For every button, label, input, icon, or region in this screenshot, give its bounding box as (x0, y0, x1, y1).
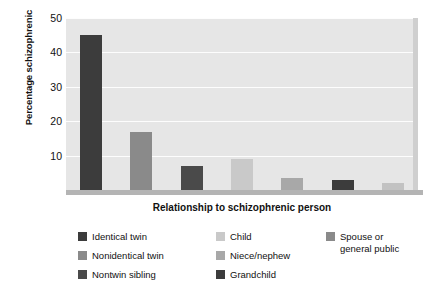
legend-item: Nonidentical twin (78, 250, 208, 263)
plot-right-edge (413, 18, 418, 190)
y-axis-tick-40: 40 (36, 47, 62, 58)
legend-item: Spouse or general public (326, 231, 431, 257)
legend-column-0: Identical twinNonidentical twinNontwin s… (78, 231, 208, 288)
y-axis-tick-30: 30 (36, 82, 62, 93)
chart-legend: Identical twinNonidentical twinNontwin s… (78, 231, 428, 291)
legend-label: Child (230, 231, 252, 243)
bar-0 (80, 35, 102, 190)
bar-series (66, 18, 418, 190)
legend-swatch-icon (216, 232, 225, 241)
chart-figure: Percentage schizophrenic 1020304050 Rela… (0, 0, 436, 300)
legend-label: Identical twin (92, 231, 147, 243)
bar-5 (332, 180, 354, 190)
legend-swatch-icon (326, 232, 335, 241)
legend-item: Niece/nephew (216, 250, 326, 263)
legend-swatch-icon (78, 232, 87, 241)
legend-label: Nonidentical twin (92, 250, 164, 262)
bar-2 (181, 166, 203, 190)
legend-item: Child (216, 231, 326, 244)
x-axis-title: Relationship to schizophrenic person (66, 202, 418, 213)
bar-4 (281, 178, 303, 190)
legend-item: Grandchild (216, 269, 326, 282)
x-axis-baseline (66, 190, 423, 195)
legend-label: Niece/nephew (230, 250, 290, 262)
legend-swatch-icon (78, 270, 87, 279)
y-axis-tick-10: 10 (36, 150, 62, 161)
y-axis-tick-20: 20 (36, 116, 62, 127)
legend-item: Identical twin (78, 231, 208, 244)
legend-column-1: ChildNiece/nephewGrandchild (216, 231, 326, 288)
legend-swatch-icon (216, 270, 225, 279)
bar-6 (382, 183, 404, 190)
plot-area (66, 18, 418, 190)
legend-column-2: Spouse or general public (326, 231, 431, 263)
bar-3 (231, 159, 253, 190)
y-axis-tick-50: 50 (36, 13, 62, 24)
legend-label: Grandchild (230, 269, 276, 281)
y-axis-title: Percentage schizophrenic (23, 0, 34, 148)
bar-1 (130, 132, 152, 190)
legend-swatch-icon (78, 251, 87, 260)
y-axis-tick-labels: 1020304050 (36, 12, 62, 192)
legend-swatch-icon (216, 251, 225, 260)
legend-label: Spouse or general public (340, 231, 399, 254)
legend-label: Nontwin sibling (92, 269, 156, 281)
legend-item: Nontwin sibling (78, 269, 208, 282)
